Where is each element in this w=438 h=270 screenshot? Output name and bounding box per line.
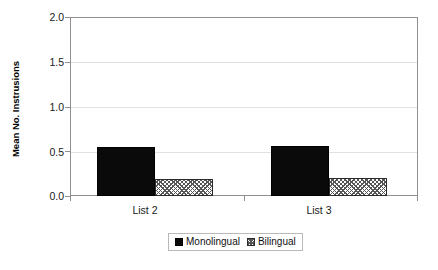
x-tick-label-list-2: List 2 xyxy=(115,204,175,216)
y-axis-title: Mean No. Instrusions xyxy=(8,44,24,174)
bar-chart: Mean No. Instrusions 2.0 1.5 1.0 0.5 0.0… xyxy=(0,0,438,270)
y-tick-label-0-5: 0.5 xyxy=(30,147,64,157)
y-tick-label-2-0: 2.0 xyxy=(30,12,64,22)
bar-list3-bilingual xyxy=(329,178,387,196)
legend-label-bilingual: Bilingual xyxy=(258,237,296,247)
y-tick-label-1-0: 1.0 xyxy=(30,102,64,112)
hatched-square-icon xyxy=(247,238,255,246)
x-tick-mark-middle xyxy=(244,196,245,201)
x-tick-mark-left xyxy=(70,196,71,201)
y-tick-label-1-5: 1.5 xyxy=(30,57,64,67)
bars-layer xyxy=(70,17,418,196)
x-tick-label-list-3: List 3 xyxy=(289,204,349,216)
legend-entry-bilingual: Bilingual xyxy=(247,237,296,247)
legend-label-monolingual: Monolingual xyxy=(186,237,240,247)
bar-list2-monolingual xyxy=(97,147,155,196)
x-tick-mark-right xyxy=(417,196,418,201)
bar-list3-monolingual xyxy=(271,146,329,196)
bar-list2-bilingual xyxy=(155,179,213,196)
legend: Monolingual Bilingual xyxy=(168,233,303,251)
y-axis-title-label: Mean No. Instrusions xyxy=(11,61,21,157)
y-axis-tick-labels: 2.0 1.5 1.0 0.5 0.0 xyxy=(28,0,64,270)
solid-square-icon xyxy=(175,238,183,246)
y-tick-label-0-0: 0.0 xyxy=(30,191,64,201)
legend-entry-monolingual: Monolingual xyxy=(175,237,240,247)
